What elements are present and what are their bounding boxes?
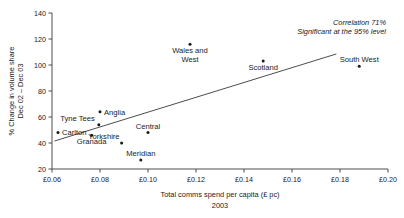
x-axis-tick-label: £0.20: [379, 175, 397, 184]
data-point-label: West: [181, 55, 199, 64]
data-point[interactable]: [120, 142, 123, 145]
x-axis-title: Total comms spend per capita (£ pc): [160, 190, 279, 199]
y-axis-tick-label: 60: [38, 113, 46, 122]
y-axis-title-line1: % Change in volume share: [7, 47, 16, 136]
data-point-label: South West: [340, 55, 380, 64]
data-point[interactable]: [99, 110, 102, 113]
y-axis-tick-label: 120: [34, 35, 46, 44]
data-point-label: Scotland: [248, 63, 278, 72]
chart-annotation: Significant at the 95% level: [297, 27, 386, 36]
data-point-label: Central: [136, 122, 161, 131]
x-axis-title-year: 2003: [212, 201, 228, 210]
x-axis-tick-label: £0.08: [91, 175, 109, 184]
data-point[interactable]: [97, 123, 100, 126]
trend-line: [54, 54, 336, 141]
chart-canvas: 20406080100120140£0.06£0.08£0.10£0.12£0.…: [0, 0, 404, 218]
data-point-label: Tyne Tees: [60, 114, 95, 123]
x-axis-tick-label: £0.12: [187, 175, 205, 184]
data-point[interactable]: [139, 158, 142, 161]
x-axis-tick-label: £0.16: [283, 175, 301, 184]
y-axis-title-line2: Dec 02 – Dec 03: [16, 63, 25, 118]
data-point-label: Meridian: [126, 149, 155, 158]
chart-annotation: Correlation 71%: [333, 18, 386, 27]
data-point[interactable]: [358, 65, 361, 68]
data-point[interactable]: [57, 131, 60, 134]
data-point-label: Yorkshire: [88, 132, 119, 141]
scatter-chart: 20406080100120140£0.06£0.08£0.10£0.12£0.…: [0, 0, 404, 218]
x-axis-tick-label: £0.18: [331, 175, 349, 184]
y-axis-tick-label: 80: [38, 87, 46, 96]
y-axis-tick-label: 140: [34, 9, 46, 18]
x-axis-tick-label: £0.06: [43, 175, 61, 184]
y-axis-tick-label: 100: [34, 61, 46, 70]
y-axis-tick-label: 40: [38, 139, 46, 148]
x-axis-tick-label: £0.14: [235, 175, 253, 184]
data-point-label: Anglia: [104, 108, 126, 117]
y-axis-tick-label: 20: [38, 165, 46, 174]
x-axis-tick-label: £0.10: [139, 175, 157, 184]
data-point[interactable]: [147, 131, 150, 134]
data-point-label: Carlton: [62, 128, 86, 137]
